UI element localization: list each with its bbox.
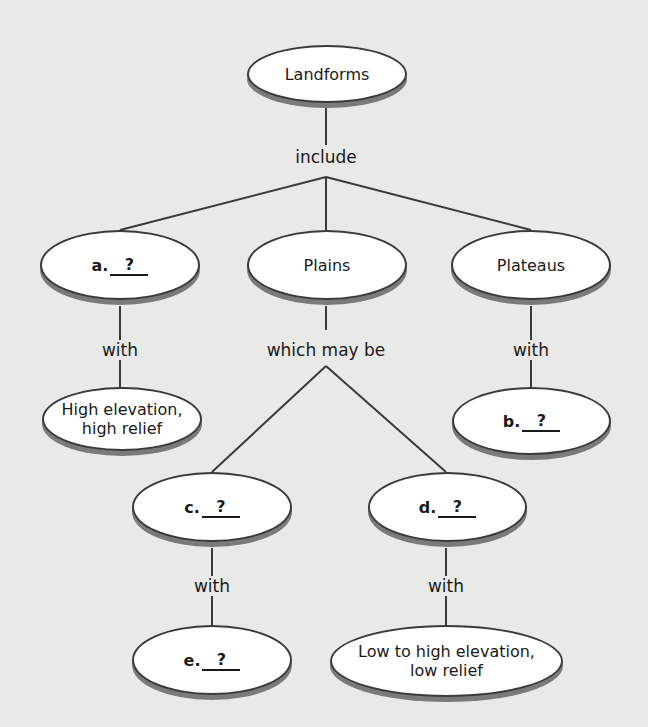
node-a: a.? (40, 230, 200, 300)
node-landforms: Landforms (247, 45, 407, 103)
connector-with-d: with (425, 576, 467, 596)
node-high-elevation: High elevation, high relief (42, 387, 202, 451)
connector-with-plateaus: with (510, 340, 552, 360)
answer-blank-d: ? (438, 497, 476, 518)
answer-blank-a: ? (110, 255, 148, 276)
connector-lines (0, 0, 648, 727)
node-plains: Plains (247, 230, 407, 300)
node-low-to-high-elevation: Low to high elevation, low relief (330, 625, 563, 697)
answer-blank-e: ? (202, 650, 240, 671)
node-plateaus: Plateaus (451, 230, 611, 300)
answer-blank-b: ? (522, 411, 560, 432)
node-d: d.? (368, 472, 527, 542)
connector-with-a: with (99, 340, 141, 360)
node-c: c.? (132, 472, 292, 542)
connector-with-c: with (191, 576, 233, 596)
connector-which-may-be: which may be (264, 340, 389, 360)
answer-blank-c: ? (202, 497, 240, 518)
connector-include: include (292, 147, 360, 167)
node-b: b.? (452, 387, 611, 455)
node-e: e.? (132, 625, 292, 695)
